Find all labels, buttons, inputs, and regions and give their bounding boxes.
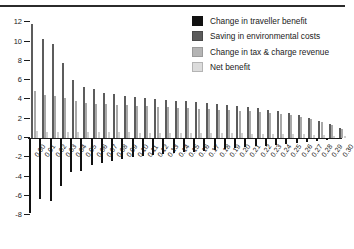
legend-item-2: Change in tax & charge revenue [192,44,344,60]
legend-label-2: Change in tax & charge revenue [210,47,329,57]
bar [272,134,274,138]
bar [121,138,123,159]
bar [169,133,171,138]
bar [326,138,328,140]
y-tick-12: 12 [14,17,30,27]
bar [337,138,339,139]
bar [98,132,100,138]
bar [132,138,134,157]
bar [80,138,82,171]
legend-item-3: Net benefit [192,60,344,76]
bar [60,138,62,186]
bar [282,134,284,138]
y-tick-6: 6 [18,75,30,85]
bar [108,132,110,138]
bar [91,138,93,165]
top-divider-rule [0,5,345,7]
bar [323,135,325,138]
bar [180,133,182,138]
bar [231,133,233,138]
y-tick-2: 2 [18,114,30,124]
bar [214,138,216,150]
bar [203,138,205,151]
legend-label-3: Net benefit [210,62,250,72]
bar [316,138,318,141]
chart-legend: Change in traveller benefit Saving in en… [192,13,344,75]
bar [224,138,226,149]
bar [46,132,48,138]
bar [241,133,243,138]
bar [159,133,161,138]
bar [234,138,236,148]
bar [57,132,59,138]
y-tick-label: 4 [18,94,22,104]
legend-swatch-icon-0 [192,16,203,26]
legend-item-1: Saving in environmental costs [192,29,344,45]
legend-swatch-icon-3 [192,62,203,72]
y-tick-label: 2 [18,114,22,124]
bar [101,138,103,163]
bar [265,138,267,146]
bar [50,138,52,201]
bar [36,131,38,138]
bar [128,132,130,138]
bar [306,138,308,142]
bar [39,138,41,199]
bar [173,138,175,153]
bar [111,138,113,161]
bar [183,138,185,152]
bar [244,138,246,147]
bar [193,138,195,152]
bar [296,138,298,143]
bar [200,133,202,138]
bar [190,133,192,138]
y-tick-10: 10 [14,37,30,47]
legend-item-0: Change in traveller benefit [192,13,344,29]
legend-swatch-icon-2 [192,47,203,57]
bar [255,138,257,146]
y-tick-8: 8 [18,56,30,66]
bar [77,132,79,138]
bar [275,138,277,145]
y-tick-label: 8 [18,56,22,66]
legend-label-0: Change in traveller benefit [210,16,307,26]
bar [303,134,305,138]
legend-label-1: Saving in environmental costs [210,31,320,41]
x-axis-labels: 0.000.010.020.030.040.050.060.070.080.09… [0,148,345,249]
bar [142,138,144,156]
y-tick-label: 10 [14,37,22,47]
bar [313,135,315,138]
bar [221,133,223,138]
bar [292,134,294,138]
bar [285,138,287,144]
bar [333,136,335,138]
bar [70,138,72,172]
bar [162,138,164,154]
bar [210,133,212,138]
bar [139,133,141,138]
bar [251,134,253,138]
bar [67,132,69,138]
bar [118,132,120,138]
bar [152,138,154,155]
y-tick-4: 4 [18,94,30,104]
bar [344,136,346,138]
y-tick-label: 12 [14,17,22,27]
y-tick-label: 6 [18,75,22,85]
y-tick-label: 0 [18,133,22,143]
bar [87,132,89,138]
bar [262,134,264,138]
bar [29,138,31,213]
legend-swatch-icon-1 [192,31,203,41]
bar [149,133,151,138]
